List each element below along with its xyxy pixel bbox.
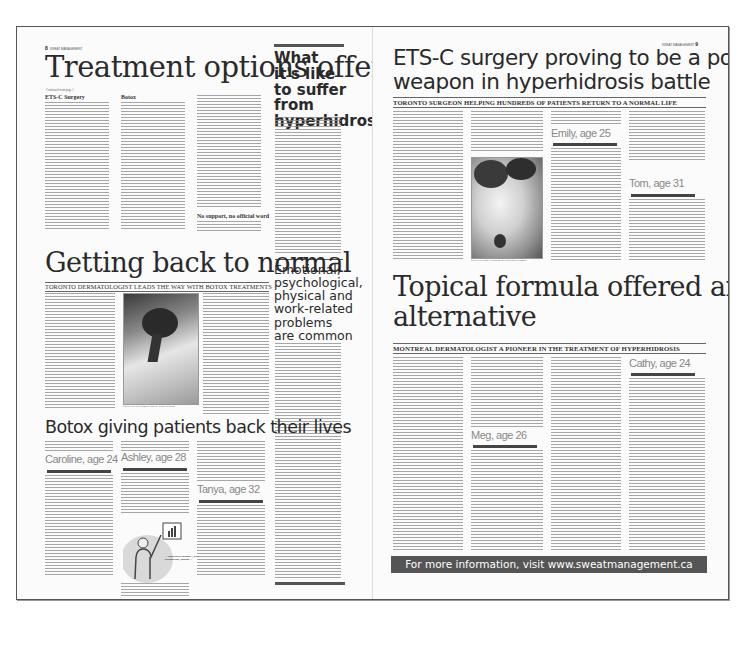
subhead-no-support: No support, no official word <box>197 213 269 219</box>
byline: Continued from page 1 <box>46 88 74 92</box>
deck-toronto-surgeon: Toronto surgeon helping hundreds of pati… <box>393 97 706 108</box>
photo-caption: Patient receives treatment from Dr. Beno… <box>123 405 199 408</box>
sidebar-text-column <box>275 117 341 255</box>
body-text-column <box>629 378 705 550</box>
profile-name-caroline: Caroline, age 24 <box>45 453 118 465</box>
body-text-column <box>629 199 705 261</box>
body-text-column <box>121 583 189 597</box>
profile-rule <box>199 500 263 503</box>
body-text-column <box>551 111 621 125</box>
newspaper-spread: 8SWEAT MANAGEMENT Treatment options offe… <box>16 26 729 600</box>
body-text-column <box>121 441 189 451</box>
body-text-column <box>471 450 543 550</box>
photo-doctor-tie <box>148 334 163 362</box>
profile-name-tom: Tom, age 31 <box>629 177 684 189</box>
body-text-column <box>121 102 185 230</box>
body-text-column <box>45 475 113 577</box>
presenter-chart-icon <box>123 521 193 583</box>
sidebar-bottom-rule <box>275 582 345 585</box>
body-text-column <box>203 293 269 415</box>
body-text-column <box>471 111 543 153</box>
profile-name-tanya: Tanya, age 32 <box>197 483 260 495</box>
body-text-column <box>197 221 261 231</box>
profile-rule <box>47 470 111 473</box>
profile-rule <box>553 143 617 146</box>
body-text-column <box>45 293 115 409</box>
sidebar-text-column <box>275 343 341 579</box>
headline-etsc-line1: ETS-C surgery proving to be a powerful <box>393 47 728 69</box>
body-text-column <box>551 357 621 551</box>
sidebar-top-rule <box>274 44 344 47</box>
headline-topical-formula-line1: Topical formula offered another <box>393 273 728 300</box>
headline-etsc-line2: weapon in hyperhidrosis battle <box>393 71 710 93</box>
headline-topical-formula-line2: alternative <box>393 303 536 330</box>
subhead-botox: Botox <box>121 94 136 100</box>
body-text-column <box>197 505 265 575</box>
profile-name-ashley: Ashley, age 28 <box>121 451 186 463</box>
illustration-presenter <box>123 521 193 583</box>
headline-botox-giving-patients: Botox giving patients back their lives <box>45 419 351 437</box>
subhead-etsc-surgery: ETS-C Surgery <box>45 94 85 100</box>
footer-text: For more information, visit www.sweatman… <box>405 558 693 570</box>
left-page: 8SWEAT MANAGEMENT Treatment options offe… <box>17 27 372 599</box>
photo-happy-couple <box>471 157 543 259</box>
footer-website-banner: For more information, visit www.sweatman… <box>391 556 707 573</box>
body-text-column <box>45 441 113 453</box>
body-text-column <box>121 473 189 513</box>
right-page: SWEAT MANAGEMENT 9 ETS-C surgery proving… <box>373 27 728 599</box>
profile-name-emily: Emily, age 25 <box>551 127 610 139</box>
photo-man-hair <box>506 158 536 180</box>
photo-woman-hair <box>474 160 508 188</box>
profile-rule <box>631 373 695 376</box>
body-text-column <box>471 357 543 427</box>
photo-doctor-treatment <box>123 293 199 405</box>
profile-rule <box>123 468 187 471</box>
body-text-column <box>629 111 705 161</box>
body-text-column <box>197 441 265 481</box>
photo-flower <box>494 234 506 248</box>
body-text-column <box>197 95 261 209</box>
profile-name-cathy: Cathy, age 24 <box>629 357 690 369</box>
profile-rule <box>473 445 537 448</box>
headline-getting-back-to-normal: Getting back to normal <box>45 249 351 276</box>
body-text-column <box>393 111 463 261</box>
body-text-column <box>393 357 463 551</box>
deck-montreal-dermatologist: Montreal dermatologist a pioneer in the … <box>393 343 706 354</box>
deck-toronto-dermatologist: Toronto dermatologist leads the way with… <box>45 282 269 292</box>
photo-caption: Sweat is no longer a problem after succe… <box>471 259 543 262</box>
profile-rule <box>631 194 695 197</box>
body-text-column <box>551 148 621 260</box>
body-text-column <box>45 102 109 230</box>
profile-name-meg: Meg, age 26 <box>471 429 527 441</box>
